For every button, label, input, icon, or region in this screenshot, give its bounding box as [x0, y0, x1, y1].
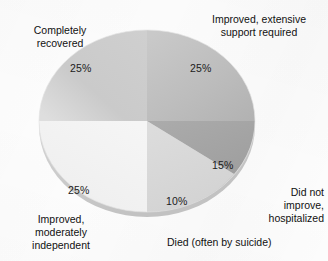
pie-slice-improved-extensive [147, 30, 255, 121]
pie-value-improved-moderately: 25% [68, 185, 89, 196]
pie-label-improved-moderately: Improved, moderately independent [6, 213, 116, 253]
pie-value-died: 10% [166, 196, 187, 207]
pie-chart-figure: 25% 25% 15% 10% 25% Completely recovered… [0, 0, 328, 261]
pie-value-completely-recovered: 25% [70, 63, 91, 74]
pie-label-completely-recovered: Completely recovered [14, 24, 106, 50]
pie-value-improved-extensive: 25% [190, 63, 211, 74]
pie-value-did-not-improve: 15% [212, 160, 233, 171]
pie-label-died: Died (often by suicide) [167, 236, 319, 249]
pie-label-did-not-improve: Did not improve, hospitalized [236, 186, 324, 226]
pie-label-improved-extensive: Improved, extensive support required [198, 13, 320, 39]
pie-slice-improved-moderately [39, 121, 147, 212]
